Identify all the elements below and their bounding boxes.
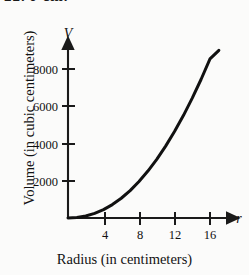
y-axis-variable-symbol: V — [64, 26, 74, 41]
x-tick-label-8: 8 — [137, 228, 143, 242]
x-axis-tick-labels: 4 8 12 16 — [102, 228, 216, 242]
plot-area: 8000 6000 4000 2000 4 8 12 16 V r — [0, 0, 249, 275]
x-tick-label-12: 12 — [169, 228, 182, 242]
y-tick-label-6000: 6000 — [33, 100, 58, 114]
x-tick-label-4: 4 — [102, 228, 109, 242]
y-tick-label-4000: 4000 — [33, 138, 58, 152]
y-tick-label-2000: 2000 — [33, 175, 58, 189]
x-axis-variable-symbol: r — [236, 211, 242, 226]
y-tick-label-8000: 8000 — [33, 63, 58, 77]
x-tick-label-16: 16 — [204, 228, 217, 242]
volume-vs-radius-chart: Volume (in cubic centimeters) 800 — [0, 0, 249, 275]
volume-curve — [68, 50, 219, 218]
y-axis-tick-labels: 8000 6000 4000 2000 — [33, 63, 58, 189]
x-axis-title-text: Radius (in centimeters) — [57, 251, 192, 267]
x-axis-title: Radius (in centimeters) — [0, 250, 249, 268]
